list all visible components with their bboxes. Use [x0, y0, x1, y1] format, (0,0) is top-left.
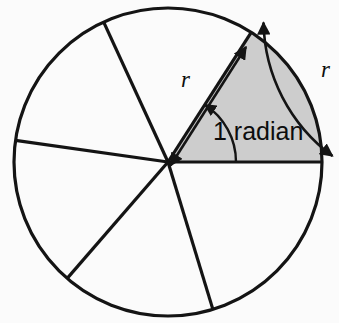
radius-label-inner: r — [181, 67, 191, 92]
spoke-115deg — [104, 22, 168, 162]
spoke-287deg — [168, 162, 213, 309]
spoke-229deg — [67, 162, 168, 278]
spoke-172deg — [16, 140, 169, 162]
angle-label: 1 radian — [213, 117, 303, 145]
radius-label-arc: r — [321, 57, 331, 82]
radian-figure: 1 radian r r — [0, 0, 339, 323]
radian-diagram: 1 radian r r — [0, 0, 339, 323]
